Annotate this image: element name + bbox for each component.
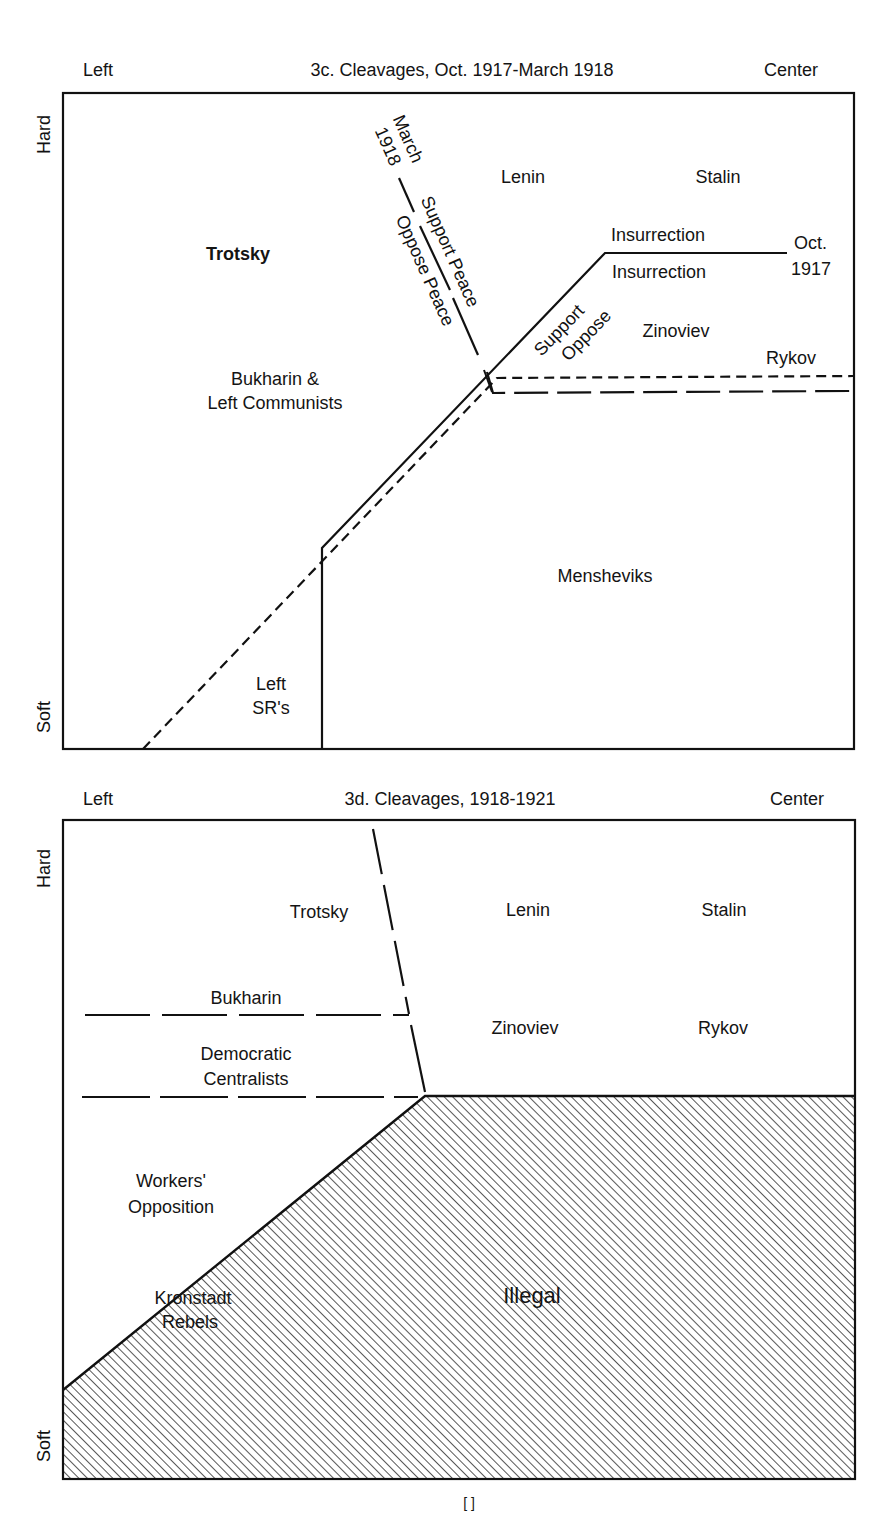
label-bukharin-3d: Bukharin: [210, 987, 281, 1009]
label-kronstadt-line1: Kronstadt: [154, 1287, 231, 1309]
label-oct: Oct.: [794, 232, 827, 254]
figure-3c-axis-bottom: Soft: [34, 701, 55, 733]
label-left-srs-line1: Left: [256, 673, 286, 695]
figure-3d-axis-right: Center: [770, 788, 824, 810]
figure-3d-title: 3d. Cleavages, 1918-1921: [344, 788, 555, 810]
label-lenin: Lenin: [501, 166, 545, 188]
label-zinoviev: Zinoviev: [642, 320, 709, 342]
long-dash-boundary-line: [487, 372, 850, 393]
trotsky-boundary-line: [373, 829, 409, 1014]
figure-3c-axis-left: Left: [83, 59, 113, 81]
label-illegal: Illegal: [503, 1285, 560, 1307]
figure-3c-axis-right: Center: [764, 59, 818, 81]
label-democratic-line1: Democratic: [200, 1043, 291, 1065]
label-rykov-3d: Rykov: [698, 1017, 748, 1039]
trotsky-boundary-lower: [411, 1025, 425, 1092]
label-left-srs-line2: SR's: [252, 697, 289, 719]
label-rykov: Rykov: [766, 347, 816, 369]
label-kronstadt-line2: Rebels: [162, 1311, 218, 1333]
figure-3c-axis-top: Hard: [34, 115, 55, 154]
label-stalin-3d: Stalin: [701, 899, 746, 921]
label-lenin-3d: Lenin: [506, 899, 550, 921]
label-oppose-insurrection: Insurrection: [612, 261, 706, 283]
label-1917: 1917: [791, 258, 831, 280]
label-bukharin-line1: Bukharin &: [231, 368, 319, 390]
figure-3d-axis-top: Hard: [34, 849, 55, 888]
label-stalin: Stalin: [695, 166, 740, 188]
peace-boundary-segment-1: [399, 178, 414, 212]
figure-3c-title: 3c. Cleavages, Oct. 1917-March 1918: [310, 59, 613, 81]
label-workers-line1: Workers': [136, 1170, 206, 1192]
figure-3d-axis-left: Left: [83, 788, 113, 810]
label-democratic-line2: Centralists: [203, 1068, 288, 1090]
label-mensheviks: Mensheviks: [557, 565, 652, 587]
label-workers-line2: Opposition: [128, 1196, 214, 1218]
label-support-insurrection: Insurrection: [611, 224, 705, 246]
label-trotsky: Trotsky: [206, 243, 270, 265]
short-dash-boundary-line: [143, 376, 853, 749]
label-trotsky-3d: Trotsky: [290, 901, 348, 923]
figure-3c-lines: [63, 93, 854, 749]
page-number: [ ]: [463, 1492, 475, 1514]
figure-3d-axis-bottom: Soft: [34, 1430, 55, 1462]
figure-3c-frame: [63, 93, 854, 749]
label-zinoviev-3d: Zinoviev: [491, 1017, 558, 1039]
label-bukharin-line2: Left Communists: [207, 392, 342, 414]
